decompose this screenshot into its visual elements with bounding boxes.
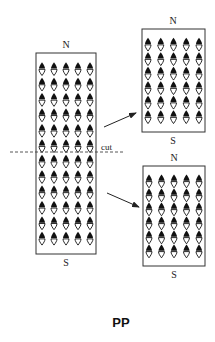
dipole-arrow-icon: [51, 139, 57, 152]
dipole-arrow-icon: [87, 170, 93, 183]
dipole-arrow-icon: [51, 155, 57, 168]
dipole-arrow-icon: [183, 52, 189, 65]
dipole-arrow-icon: [171, 96, 177, 109]
dipole-arrow-icon: [171, 175, 177, 188]
dipole-arrow-icon: [39, 232, 45, 245]
dipole-arrow-icon: [146, 217, 152, 230]
dipole-arrow-icon: [75, 232, 81, 245]
dipole-arrow-icon: [87, 93, 93, 106]
dipole-arrow-icon: [183, 110, 189, 123]
original-dipole-grid: [39, 62, 93, 245]
dipole-arrow-icon: [196, 52, 202, 65]
dipole-arrow-icon: [158, 110, 164, 123]
dipole-arrow-icon: [196, 189, 202, 202]
dipole-arrow-icon: [87, 232, 93, 245]
magnet-cut-diagram: N S cut N S N S PP: [0, 0, 215, 342]
dipole-arrow-icon: [158, 96, 164, 109]
dipole-arrow-icon: [183, 67, 189, 80]
dipole-arrow-icon: [63, 201, 69, 214]
dipole-arrow-icon: [51, 108, 57, 121]
dipole-arrow-icon: [159, 217, 165, 230]
dipole-arrow-icon: [196, 231, 202, 244]
original-south-label: S: [63, 257, 69, 268]
dipole-arrow-icon: [159, 175, 165, 188]
dipole-arrow-icon: [51, 216, 57, 229]
dipole-arrow-icon: [183, 96, 189, 109]
dipole-arrow-icon: [63, 124, 69, 137]
dipole-arrow-icon: [146, 231, 152, 244]
dipole-arrow-icon: [184, 189, 190, 202]
dipole-arrow-icon: [158, 67, 164, 80]
dipole-arrow-icon: [75, 93, 81, 106]
dipole-arrow-icon: [196, 175, 202, 188]
dipole-arrow-icon: [39, 108, 45, 121]
upper-north-label: N: [169, 15, 176, 26]
dipole-arrow-icon: [183, 81, 189, 94]
dipole-arrow-icon: [184, 175, 190, 188]
dipole-arrow-icon: [159, 203, 165, 216]
dipole-arrow-icon: [51, 232, 57, 245]
dipole-arrow-icon: [145, 81, 151, 94]
lower-dipole-grid: [146, 175, 202, 258]
dipole-arrow-icon: [75, 216, 81, 229]
dipole-arrow-icon: [63, 139, 69, 152]
dipole-arrow-icon: [75, 78, 81, 91]
upper-piece-magnet: N S: [142, 15, 205, 146]
dipole-arrow-icon: [196, 217, 202, 230]
dipole-arrow-icon: [75, 201, 81, 214]
dipole-arrow-icon: [87, 124, 93, 137]
upper-south-label: S: [170, 135, 176, 146]
original-north-label: N: [62, 39, 69, 50]
dipole-arrow-icon: [75, 186, 81, 199]
dipole-arrow-icon: [171, 231, 177, 244]
dipole-arrow-icon: [63, 186, 69, 199]
dipole-arrow-icon: [146, 203, 152, 216]
diagram-caption: PP: [112, 315, 130, 330]
dipole-arrow-icon: [183, 38, 189, 51]
dipole-arrow-icon: [171, 38, 177, 51]
dipole-arrow-icon: [51, 186, 57, 199]
dipole-arrow-icon: [63, 93, 69, 106]
dipole-arrow-icon: [63, 232, 69, 245]
dipole-arrow-icon: [75, 124, 81, 137]
arrow-to-lower-icon: [107, 193, 139, 207]
dipole-arrow-icon: [196, 67, 202, 80]
dipole-arrow-icon: [51, 124, 57, 137]
dipole-arrow-icon: [51, 201, 57, 214]
dipole-arrow-icon: [39, 93, 45, 106]
dipole-arrow-icon: [39, 78, 45, 91]
lower-piece-magnet: N S: [143, 152, 205, 280]
dipole-arrow-icon: [51, 62, 57, 75]
dipole-arrow-icon: [39, 170, 45, 183]
lower-north-label: N: [170, 152, 177, 163]
dipole-arrow-icon: [171, 189, 177, 202]
dipole-arrow-icon: [184, 217, 190, 230]
dipole-arrow-icon: [171, 245, 177, 258]
dipole-arrow-icon: [146, 189, 152, 202]
dipole-arrow-icon: [158, 38, 164, 51]
dipole-arrow-icon: [196, 203, 202, 216]
dipole-arrow-icon: [75, 170, 81, 183]
dipole-arrow-icon: [171, 67, 177, 80]
dipole-arrow-icon: [145, 110, 151, 123]
dipole-arrow-icon: [51, 170, 57, 183]
dipole-arrow-icon: [39, 155, 45, 168]
dipole-arrow-icon: [196, 96, 202, 109]
dipole-arrow-icon: [196, 245, 202, 258]
dipole-arrow-icon: [39, 201, 45, 214]
dipole-arrow-icon: [51, 78, 57, 91]
dipole-arrow-icon: [87, 108, 93, 121]
dipole-arrow-icon: [171, 203, 177, 216]
dipole-arrow-icon: [145, 52, 151, 65]
dipole-arrow-icon: [196, 110, 202, 123]
dipole-arrow-icon: [75, 139, 81, 152]
arrow-to-upper-icon: [104, 113, 136, 127]
dipole-arrow-icon: [75, 155, 81, 168]
dipole-arrow-icon: [39, 216, 45, 229]
dipole-arrow-icon: [196, 38, 202, 51]
dipole-arrow-icon: [171, 217, 177, 230]
upper-dipole-grid: [145, 38, 202, 124]
dipole-arrow-icon: [39, 139, 45, 152]
dipole-arrow-icon: [75, 108, 81, 121]
dipole-arrow-icon: [184, 231, 190, 244]
